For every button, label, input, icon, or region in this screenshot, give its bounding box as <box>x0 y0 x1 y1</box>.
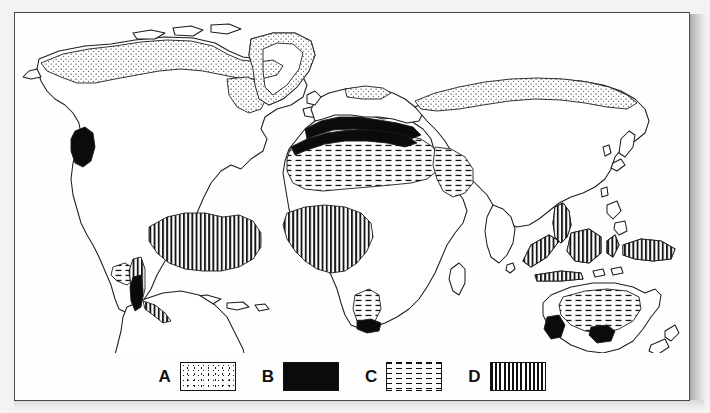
legend-item-b: B <box>262 362 339 391</box>
region-solid-california <box>71 127 95 167</box>
region-vertical-sulawesi <box>607 235 619 257</box>
legend-swatch-vertical <box>490 362 546 391</box>
legend-letter-d: D <box>468 368 480 385</box>
legend-swatch-stipple <box>180 362 236 391</box>
island-philippines-1 <box>607 201 621 219</box>
region-vertical-amazon <box>149 213 261 271</box>
region-vertical-java <box>535 271 583 281</box>
island-small-1 <box>593 269 605 277</box>
world-map <box>15 13 689 353</box>
legend-letter-c: C <box>365 368 377 385</box>
island-taiwan <box>601 187 608 197</box>
island-hispaniola <box>227 302 249 310</box>
island-new-zealand-n <box>665 325 679 341</box>
island-antilles <box>255 304 269 311</box>
page-shadow-bottom <box>14 400 704 413</box>
legend-swatch-solid <box>283 362 339 391</box>
legend-letter-a: A <box>158 368 170 385</box>
island-madagascar <box>449 263 465 295</box>
region-vertical-malay <box>553 203 571 243</box>
island-arctic-3 <box>211 24 241 34</box>
coast-detail-alaska <box>23 69 41 79</box>
region-stipple-scandinavia <box>345 86 391 99</box>
island-srilanka <box>506 263 515 273</box>
map-legend: A B C D <box>15 353 689 400</box>
region-solid-cape <box>357 319 381 333</box>
island-new-zealand-s <box>649 339 669 353</box>
island-philippines-2 <box>614 221 627 235</box>
island-small-2 <box>611 267 623 275</box>
page-shadow-right <box>688 14 710 406</box>
region-vertical-sumatra <box>523 235 559 267</box>
legend-swatch-dash <box>386 362 442 391</box>
legend-letter-b: B <box>262 368 274 385</box>
legend-item-a: A <box>158 362 235 391</box>
legend-item-d: D <box>468 362 545 391</box>
island-arctic-2 <box>173 26 203 36</box>
map-sheet: A B C D <box>14 12 690 401</box>
world-map-svg <box>15 13 689 353</box>
region-vertical-new-guinea <box>623 239 675 261</box>
legend-item-c: C <box>365 362 442 391</box>
